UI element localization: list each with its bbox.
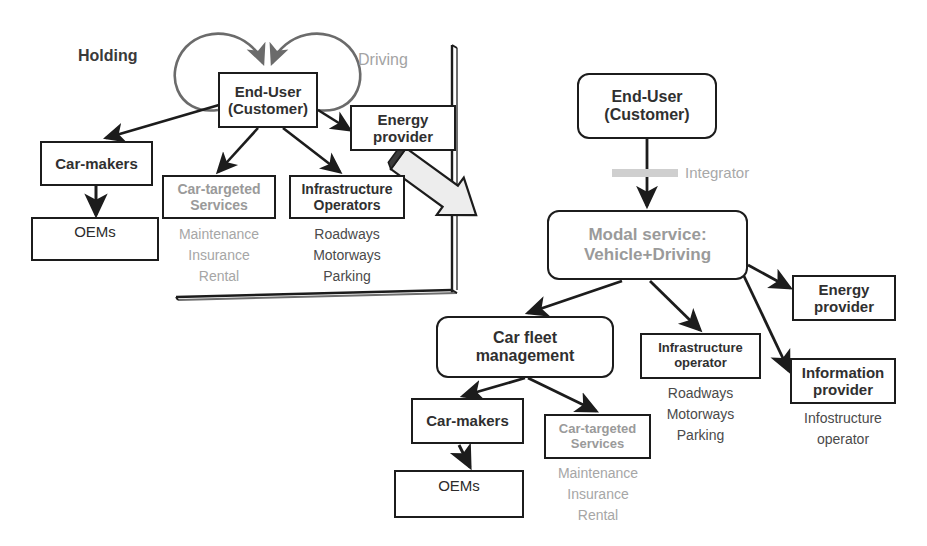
node-left-energy-provider-line1: Energy xyxy=(378,111,429,128)
node-right-modal-service[interactable]: Modal service: Vehicle+Driving xyxy=(547,210,748,280)
node-right-information-provider[interactable]: Information provider xyxy=(790,358,896,404)
node-right-energy-provider-line1: Energy xyxy=(819,281,870,298)
node-right-oems-label: OEMs xyxy=(438,477,480,494)
list-right-infrastructure-operator-item-1: Motorways xyxy=(640,404,761,425)
list-left-infrastructure-operators-item-2: Parking xyxy=(289,266,405,287)
node-left-car-makers-label: Car-makers xyxy=(55,155,138,172)
node-right-infrastructure-operator-line1: Infrastructure xyxy=(658,341,743,356)
node-left-oems[interactable]: OEMs xyxy=(31,217,159,261)
node-right-oems[interactable]: OEMs xyxy=(394,470,524,518)
node-left-oems-label: OEMs xyxy=(74,223,116,240)
list-right-infrastructure-operator-item-0: Roadways xyxy=(640,383,761,404)
edge-enduser-to-energy-provider xyxy=(318,110,350,130)
node-left-end-user-line2: (Customer) xyxy=(228,100,308,117)
node-left-energy-provider-line2: provider xyxy=(373,128,433,145)
list-right-car-targeted-services: Maintenance Insurance Rental xyxy=(536,463,660,526)
edge-enduser-to-car-targeted-services xyxy=(218,128,258,172)
node-right-modal-service-line2: Vehicle+Driving xyxy=(584,245,711,265)
edge-car-fleet-to-car-targeted-services xyxy=(528,378,596,411)
diagram-vector-layer xyxy=(0,0,927,546)
node-left-end-user-line1: End-User xyxy=(235,83,302,100)
node-left-end-user[interactable]: End-User (Customer) xyxy=(218,72,318,128)
node-left-infrastructure-operators-line1: Infrastructure xyxy=(301,181,392,197)
list-left-car-targeted-services-item-0: Maintenance xyxy=(162,224,276,245)
node-right-car-fleet-management-line2: management xyxy=(476,347,575,365)
node-right-car-fleet-management[interactable]: Car fleet management xyxy=(436,316,614,378)
node-left-car-targeted-services-line1: Car-targeted xyxy=(177,181,260,197)
node-right-energy-provider-line2: provider xyxy=(814,298,874,315)
integrator-marker-icon xyxy=(612,169,678,177)
list-left-infrastructure-operators: Roadways Motorways Parking xyxy=(289,224,405,287)
node-left-car-makers[interactable]: Car-makers xyxy=(40,141,153,186)
list-right-car-targeted-services-item-1: Insurance xyxy=(536,484,660,505)
edge-modal-service-to-infrastructure-operator xyxy=(650,281,700,330)
node-right-car-fleet-management-line1: Car fleet xyxy=(493,329,557,347)
edge-label-holding: Holding xyxy=(78,47,138,65)
edge-modal-service-to-car-fleet xyxy=(528,281,622,313)
node-right-modal-service-line1: Modal service: xyxy=(588,225,706,245)
list-right-car-targeted-services-item-0: Maintenance xyxy=(536,463,660,484)
list-right-infrastructure-operator-item-2: Parking xyxy=(640,425,761,446)
node-right-information-provider-line2: provider xyxy=(813,381,873,398)
list-right-car-targeted-services-item-2: Rental xyxy=(536,505,660,526)
node-right-infrastructure-operator[interactable]: Infrastructure operator xyxy=(640,333,761,379)
list-right-information-provider-item-1: operator xyxy=(782,429,904,450)
node-right-car-makers-label: Car-makers xyxy=(426,412,509,429)
node-left-energy-provider[interactable]: Energy provider xyxy=(350,105,456,151)
edge-enduser-to-carmakers xyxy=(106,105,219,138)
node-right-car-makers[interactable]: Car-makers xyxy=(411,398,524,444)
node-right-end-user-line1: End-User xyxy=(611,88,682,106)
list-left-car-targeted-services-item-2: Rental xyxy=(162,266,276,287)
edge-car-fleet-to-carmakers xyxy=(463,378,525,396)
node-right-end-user[interactable]: End-User (Customer) xyxy=(577,73,717,139)
edge-label-driving: Driving xyxy=(358,51,408,69)
node-left-infrastructure-operators-line2: Operators xyxy=(314,197,381,213)
edge-label-integrator: Integrator xyxy=(685,164,749,181)
node-left-car-targeted-services[interactable]: Car-targeted Services xyxy=(162,175,276,219)
node-right-end-user-line2: (Customer) xyxy=(604,106,689,124)
list-right-infrastructure-operator: Roadways Motorways Parking xyxy=(640,383,761,446)
diagram-canvas: Holding Driving End-User (Customer) Ener… xyxy=(0,0,927,546)
list-right-information-provider: Infostructure operator xyxy=(782,408,904,450)
list-left-car-targeted-services-item-1: Insurance xyxy=(162,245,276,266)
list-left-infrastructure-operators-item-1: Motorways xyxy=(289,245,405,266)
node-left-car-targeted-services-line2: Services xyxy=(190,197,248,213)
edge-carmakers-to-oems-bottom xyxy=(459,445,470,467)
node-right-car-targeted-services-line1: Car-targeted xyxy=(559,422,636,437)
list-right-information-provider-item-0: Infostructure xyxy=(782,408,904,429)
node-right-information-provider-line1: Information xyxy=(802,364,885,381)
node-right-car-targeted-services[interactable]: Car-targeted Services xyxy=(544,414,651,459)
node-left-infrastructure-operators[interactable]: Infrastructure Operators xyxy=(289,175,405,219)
edge-modal-service-to-energy-provider xyxy=(748,265,790,288)
edge-enduser-to-infrastructure-operators xyxy=(283,128,340,172)
list-left-car-targeted-services: Maintenance Insurance Rental xyxy=(162,224,276,287)
list-left-infrastructure-operators-item-0: Roadways xyxy=(289,224,405,245)
node-right-car-targeted-services-line2: Services xyxy=(571,437,625,452)
node-right-infrastructure-operator-line2: operator xyxy=(674,356,727,371)
node-right-energy-provider[interactable]: Energy provider xyxy=(792,275,896,321)
